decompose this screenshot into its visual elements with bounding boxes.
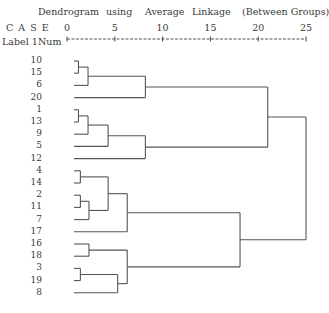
dendrogram-plot: [0, 0, 325, 313]
